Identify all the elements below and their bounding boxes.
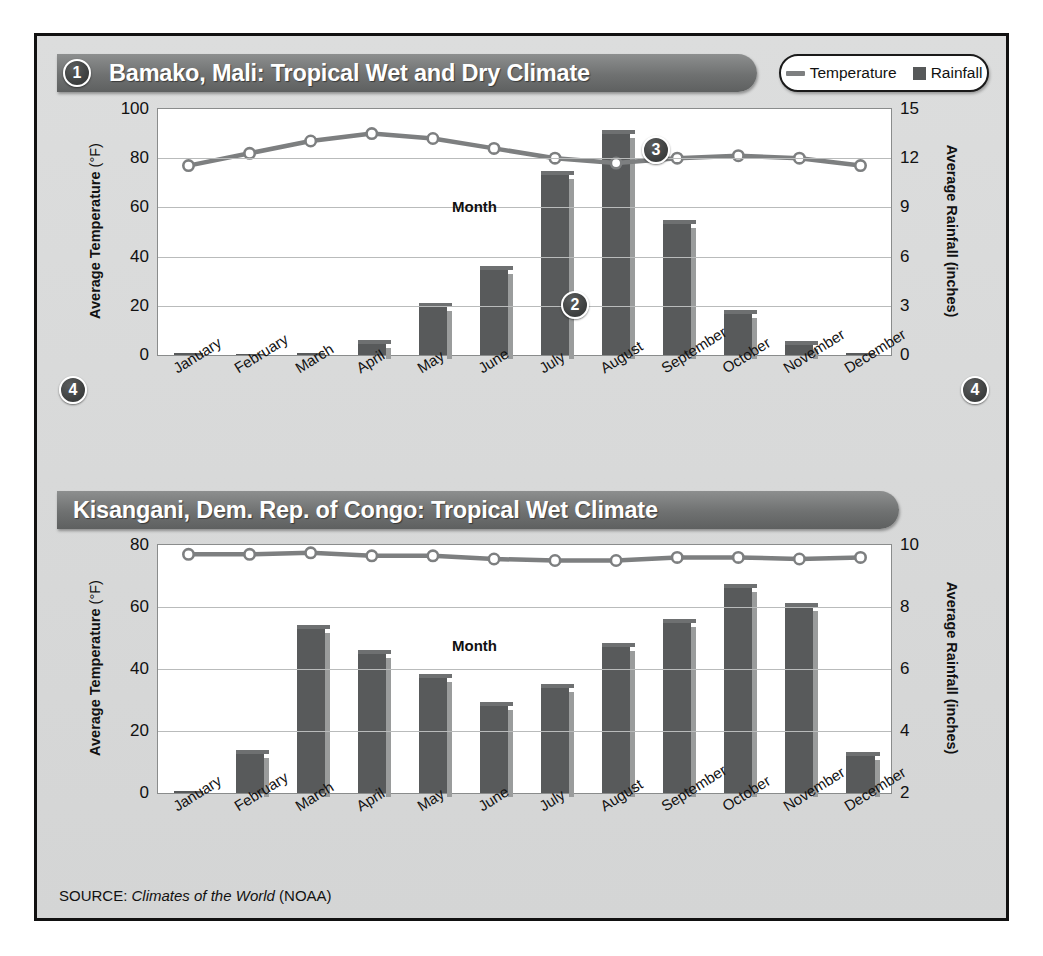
legend-item-temperature[interactable]: Temperature xyxy=(786,64,897,82)
temperature-point-may xyxy=(428,551,438,561)
temperature-point-june xyxy=(489,554,499,564)
chart-title-banner-bamako: Bamako, Mali: Tropical Wet and Dry Clima… xyxy=(57,54,757,92)
axis-title-main: Average Rainfall xyxy=(944,145,960,262)
y-axis-tick-label: 40 xyxy=(130,659,149,679)
y2-axis-tick-label: 4 xyxy=(900,721,909,741)
gridline xyxy=(158,607,891,608)
temperature-line-path xyxy=(189,553,861,561)
line-series-temperature-1 xyxy=(158,109,891,355)
y-axis-tick-label: 100 xyxy=(121,99,149,119)
y-axis-tick-label: 80 xyxy=(130,535,149,555)
axis-title-main: Average Rainfall xyxy=(944,582,960,699)
axis-title-main: Average Temperature xyxy=(87,167,103,319)
x-axis-title-2: Month xyxy=(452,637,497,654)
temperature-point-february xyxy=(244,148,254,158)
y-axis-tick-label: 40 xyxy=(130,247,149,267)
y2-axis-tick-label: 9 xyxy=(900,197,909,217)
y-axis-tick-label: 20 xyxy=(130,721,149,741)
y2-axis-title-rainfall-1: Average Rainfall (inches) xyxy=(944,145,960,318)
source-note: SOURCE: Climates of the World (NOAA) xyxy=(59,887,332,904)
source-suffix: (NOAA) xyxy=(275,887,332,904)
temperature-point-november xyxy=(794,554,804,564)
temperature-point-december xyxy=(855,552,865,562)
y2-axis-title-rainfall-2: Average Rainfall (inches) xyxy=(944,582,960,755)
climate-figure: Bamako, Mali: Tropical Wet and Dry Clima… xyxy=(34,33,1009,921)
axis-title-main: Average Temperature xyxy=(87,604,103,756)
y2-axis-tick-label: 10 xyxy=(900,535,919,555)
temperature-point-march xyxy=(306,136,316,146)
axis-title-unit: (°F) xyxy=(87,580,103,604)
legend-item-rainfall[interactable]: Rainfall xyxy=(913,64,983,82)
y-axis-title-temperature-1: Average Temperature (°F) xyxy=(87,143,103,319)
callout-badge-3[interactable]: 3 xyxy=(642,136,670,164)
y2-axis-tick-label: 12 xyxy=(900,148,919,168)
y2-axis-tick-label: 0 xyxy=(900,345,909,365)
y-axis-tick-label: 20 xyxy=(130,296,149,316)
y2-axis-tick-label: 3 xyxy=(900,296,909,316)
temperature-point-april xyxy=(367,551,377,561)
callout-badge-4-right[interactable]: 4 xyxy=(961,376,989,404)
callout-badge-1[interactable]: 1 xyxy=(63,59,91,87)
gridline xyxy=(158,731,891,732)
temperature-point-august xyxy=(611,555,621,565)
y-axis-tick-label: 0 xyxy=(140,345,149,365)
temperature-point-october xyxy=(733,552,743,562)
legend-label-rainfall: Rainfall xyxy=(931,64,983,82)
chart-kisangani: Average Temperature (°F) Average Rainfal… xyxy=(57,534,991,919)
legend-line-icon xyxy=(786,71,805,76)
axis-title-unit: (inches) xyxy=(944,699,960,755)
plot-area-kisangani: 020406080246810 xyxy=(157,544,892,794)
chart-legend: Temperature Rainfall xyxy=(779,54,989,92)
callout-badge-2[interactable]: 2 xyxy=(561,291,589,319)
y2-axis-tick-label: 2 xyxy=(900,783,909,803)
gridline xyxy=(158,306,891,307)
plot-area-bamako: 02040608010003691215 xyxy=(157,108,892,356)
y-axis-tick-label: 60 xyxy=(130,597,149,617)
temperature-line-path xyxy=(189,134,861,166)
temperature-point-june xyxy=(489,143,499,153)
legend-swatch-icon xyxy=(913,67,926,80)
callout-badge-4-left[interactable]: 4 xyxy=(59,376,87,404)
source-title: Climates of the World xyxy=(132,887,275,904)
y2-axis-tick-label: 8 xyxy=(900,597,909,617)
y2-axis-tick-label: 15 xyxy=(900,99,919,119)
y-axis-tick-label: 60 xyxy=(130,197,149,217)
temperature-point-september xyxy=(672,552,682,562)
x-axis-title-1: Month xyxy=(452,198,497,215)
temperature-point-may xyxy=(428,133,438,143)
y2-axis-tick-label: 6 xyxy=(900,247,909,267)
temperature-point-february xyxy=(244,549,254,559)
gridline xyxy=(158,257,891,258)
chart-title-kisangani: Kisangani, Dem. Rep. of Congo: Tropical … xyxy=(57,497,658,524)
y-axis-title-temperature-2: Average Temperature (°F) xyxy=(87,580,103,756)
temperature-point-january xyxy=(183,549,193,559)
temperature-point-april xyxy=(367,128,377,138)
temperature-point-july xyxy=(550,555,560,565)
gridline xyxy=(158,207,891,208)
figure-page: Bamako, Mali: Tropical Wet and Dry Clima… xyxy=(0,0,1043,956)
temperature-point-october xyxy=(733,151,743,161)
axis-title-unit: (°F) xyxy=(87,143,103,167)
temperature-point-august xyxy=(611,158,621,168)
y-axis-tick-label: 80 xyxy=(130,148,149,168)
chart-title-bamako: Bamako, Mali: Tropical Wet and Dry Clima… xyxy=(57,60,590,87)
gridline xyxy=(158,669,891,670)
axis-title-unit: (inches) xyxy=(944,262,960,318)
temperature-point-december xyxy=(855,160,865,170)
legend-label-temperature: Temperature xyxy=(810,64,897,82)
chart-title-banner-kisangani: Kisangani, Dem. Rep. of Congo: Tropical … xyxy=(57,491,899,529)
y-axis-tick-label: 0 xyxy=(140,783,149,803)
y2-axis-tick-label: 6 xyxy=(900,659,909,679)
gridline xyxy=(158,158,891,159)
chart-bamako: Average Temperature (°F) Average Rainfal… xyxy=(57,98,991,483)
source-prefix: SOURCE: xyxy=(59,887,132,904)
temperature-point-january xyxy=(183,160,193,170)
temperature-point-march xyxy=(306,548,316,558)
